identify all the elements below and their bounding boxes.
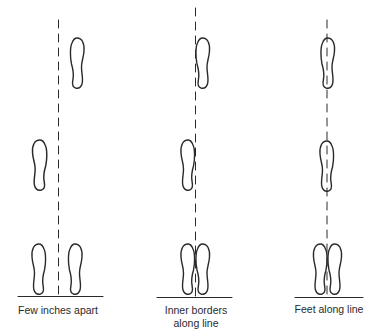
footprint-left-step: [181, 140, 195, 190]
caption-line: Few inches apart: [18, 304, 98, 317]
caption-few-inches-apart: Few inches apart: [18, 304, 98, 317]
caption-inner-borders-along-line: Inner borders along line: [165, 304, 227, 330]
footprint-right-standing: [68, 244, 82, 294]
footprint-left-step: [32, 140, 46, 190]
footprint-left-standing: [181, 244, 195, 294]
caption-line: along line: [165, 317, 227, 330]
panel-few-inches-apart: [18, 20, 103, 297]
panel-inner-borders-along-line: [157, 8, 232, 298]
panel-feet-along-line: [295, 20, 363, 298]
foot-placement-diagram: [0, 0, 379, 336]
caption-line: Inner borders: [165, 304, 227, 317]
footprint-left-standing: [32, 244, 46, 294]
footprint-step-on-line: [321, 38, 335, 88]
footprint-right-standing: [328, 244, 342, 294]
caption-feet-along-line: Feet along line: [295, 303, 364, 316]
footprint-right-step: [196, 38, 210, 88]
footprint-left-standing: [313, 244, 327, 294]
caption-line: Feet along line: [295, 303, 364, 316]
footprint-right-step: [70, 38, 84, 88]
footprint-right-standing: [196, 244, 210, 294]
